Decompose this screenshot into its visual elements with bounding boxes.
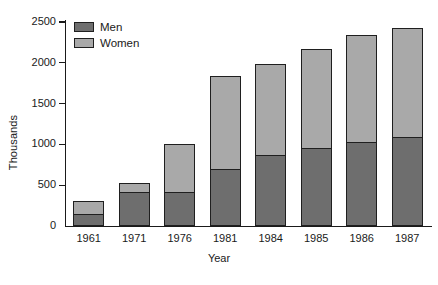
legend-swatch-women <box>74 38 94 48</box>
bar-group[interactable] <box>164 144 195 226</box>
x-tick-label: 1961 <box>66 232 112 244</box>
legend-item[interactable]: Men <box>74 19 139 34</box>
x-tick-label: 1985 <box>294 232 340 244</box>
bar-segment-men[interactable] <box>119 192 150 226</box>
legend-swatch-men <box>74 22 94 32</box>
x-axis-title: Year <box>0 252 438 264</box>
bar-group[interactable] <box>346 35 377 226</box>
chart-legend: MenWomen <box>74 19 139 51</box>
bar-group[interactable] <box>301 49 332 226</box>
bar-segment-men[interactable] <box>346 142 377 226</box>
bar-group[interactable] <box>392 28 423 226</box>
bar-segment-men[interactable] <box>392 137 423 226</box>
bar-group[interactable] <box>255 64 286 226</box>
bar-segment-men[interactable] <box>301 147 332 226</box>
bar-segment-men[interactable] <box>73 214 104 226</box>
x-tick-label: 1986 <box>339 232 385 244</box>
bar-group[interactable] <box>119 183 150 226</box>
stacked-bar-chart: Thousands 05001000150020002500 196119711… <box>0 0 438 285</box>
bar-segment-women[interactable] <box>255 64 286 155</box>
x-tick-label: 1976 <box>157 232 203 244</box>
x-tick-label: 1981 <box>203 232 249 244</box>
legend-label: Women <box>100 37 139 49</box>
bar-segment-women[interactable] <box>346 35 377 143</box>
legend-item[interactable]: Women <box>74 35 139 50</box>
x-tick-label: 1984 <box>248 232 294 244</box>
x-tick-label: 1987 <box>385 232 431 244</box>
bar-segment-men[interactable] <box>164 192 195 226</box>
x-tick-label: 1971 <box>112 232 158 244</box>
bar-segment-women[interactable] <box>73 201 104 215</box>
bar-segment-women[interactable] <box>164 144 195 193</box>
bar-segment-women[interactable] <box>301 49 332 148</box>
legend-label: Men <box>100 21 122 33</box>
bar-segment-women[interactable] <box>210 76 241 170</box>
bar-segment-men[interactable] <box>210 169 241 226</box>
bar-segment-women[interactable] <box>119 183 150 193</box>
bar-segment-men[interactable] <box>255 155 286 226</box>
bar-group[interactable] <box>210 76 241 226</box>
bar-group[interactable] <box>73 201 104 226</box>
bar-segment-women[interactable] <box>392 28 423 138</box>
